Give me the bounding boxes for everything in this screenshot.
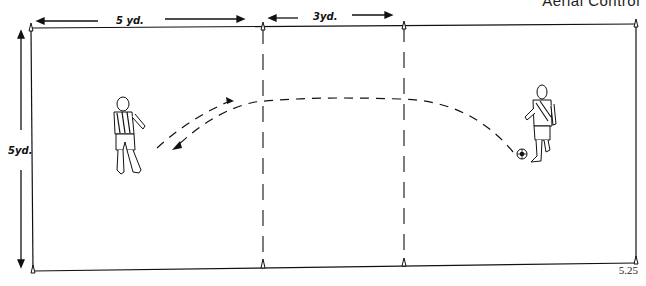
soccer-ball-icon <box>517 149 527 159</box>
cone-icon <box>261 22 265 30</box>
neutral-zone-lines <box>263 26 404 262</box>
leg-left <box>117 150 124 174</box>
shorts <box>534 126 550 140</box>
cone-icon <box>31 265 35 273</box>
cone-icon <box>402 21 406 29</box>
leg-right <box>127 150 141 173</box>
cone-icon <box>634 256 638 264</box>
leg-right <box>544 140 550 152</box>
height-label-5yd: 5yd. <box>8 145 32 156</box>
head <box>537 85 547 99</box>
return-pass-path <box>157 101 230 148</box>
width-label-3yd: 3yd. <box>313 11 337 22</box>
cone-icon <box>634 19 638 27</box>
cone-icon <box>261 259 265 268</box>
player-right <box>525 85 556 162</box>
field-diagram: 5 yd. 3yd. 5yd. <box>0 0 646 286</box>
figure-number: 5.25 <box>619 264 638 276</box>
pass-paths <box>157 98 513 152</box>
shorts <box>116 134 135 150</box>
head <box>117 97 129 111</box>
player-left <box>114 97 145 174</box>
arm <box>132 114 145 129</box>
arrow-icon <box>226 97 234 104</box>
lofted-pass-path <box>175 98 513 152</box>
width-label-5yd: 5 yd. <box>116 15 144 26</box>
leg-left <box>531 140 542 162</box>
width-arrows <box>37 12 392 24</box>
cone-icon <box>402 258 406 266</box>
cone-icon <box>29 23 33 31</box>
